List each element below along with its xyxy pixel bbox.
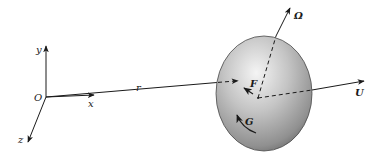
coordinate-axes: O y x z <box>17 44 94 145</box>
origin-label: O <box>34 92 42 103</box>
velocity-label: U <box>355 87 365 98</box>
angular-velocity-vector <box>276 8 290 36</box>
rigid-body-diagram: O y x z r Ω U F G <box>0 0 379 162</box>
position-vector-r <box>46 83 217 98</box>
torque-label: G <box>245 116 254 127</box>
x-axis-label: x <box>88 98 94 109</box>
rigid-body <box>216 36 312 151</box>
body-center-point <box>257 97 259 99</box>
z-axis <box>28 97 46 142</box>
position-vector-label: r <box>136 82 142 93</box>
force-label: F <box>249 78 258 89</box>
angular-velocity-label: Ω <box>293 10 303 21</box>
y-axis-label: y <box>35 44 42 55</box>
z-axis-label: z <box>17 134 24 145</box>
